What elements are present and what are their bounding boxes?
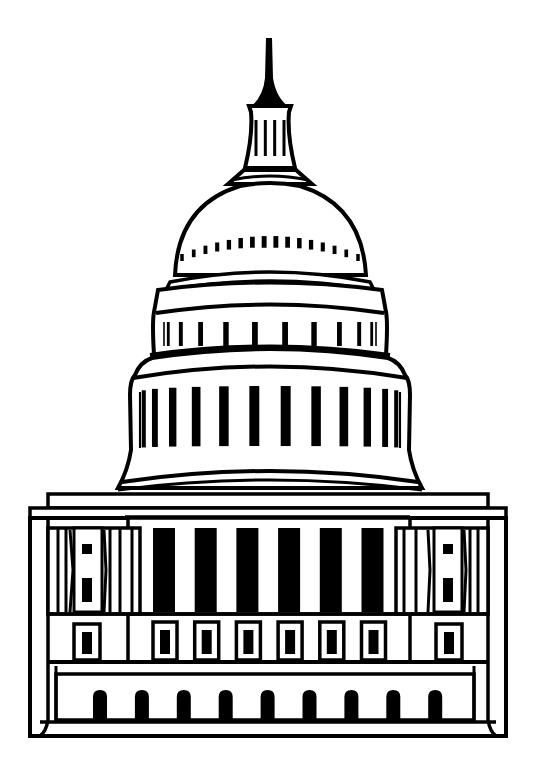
arch-doorway [344, 690, 358, 720]
dome-window [356, 254, 360, 261]
upper-drum-column [370, 322, 373, 346]
lower-drum-column [142, 390, 146, 447]
capitol-illustration: United States Capitol building line art [0, 0, 536, 775]
portico-column-gap [236, 528, 258, 612]
lower-drum-column [399, 392, 401, 448]
lower-drum [118, 349, 422, 490]
dome-window [321, 242, 325, 251]
arch-doorway [219, 690, 233, 720]
window-pane [160, 630, 170, 654]
arch-doorway [303, 690, 317, 720]
dome-window [273, 236, 278, 248]
upper-drum-column [357, 322, 361, 346]
lower-drum-column [394, 390, 398, 447]
dome-window [215, 242, 219, 251]
spire [249, 38, 290, 108]
upper-drum-column [163, 322, 165, 346]
arch-doorway [261, 690, 275, 720]
dome-window [204, 246, 208, 254]
dome-window [333, 246, 337, 254]
dome-window [192, 250, 196, 258]
lower-drum-column [382, 389, 388, 447]
portico-column-gap [320, 528, 342, 612]
window-pane [369, 630, 379, 654]
lower-drum-column [311, 386, 321, 446]
upper-drum-column [282, 322, 288, 346]
capitol-drawing [0, 0, 536, 775]
dome-window [262, 236, 267, 248]
lantern [228, 106, 312, 184]
dome-window [297, 238, 302, 248]
upper-drum [150, 283, 390, 356]
arch-doorway [177, 690, 191, 720]
window-pane [285, 630, 295, 654]
lower-drum-column [169, 388, 176, 447]
upper-drum-column [179, 322, 183, 346]
portico-column-gap [362, 528, 384, 612]
lower-drum-column [249, 386, 259, 446]
lower-drum-column [192, 387, 201, 446]
dome-window [180, 254, 184, 261]
upper-drum-column [311, 322, 316, 346]
arch-doorway [386, 690, 400, 720]
lower-drum-column [340, 387, 349, 446]
arch-doorway [93, 690, 107, 720]
portico-column-gap [278, 528, 300, 612]
dome-window [227, 240, 231, 250]
lower-drum-column [152, 389, 158, 447]
upper-drum-column [167, 322, 170, 346]
lantern-column [264, 120, 267, 156]
lower-drum-column [364, 388, 371, 447]
lower-drum-column [139, 392, 141, 448]
window-pane [202, 630, 212, 654]
lantern-column [273, 120, 276, 156]
right-wing [396, 528, 488, 614]
window-pane [327, 630, 337, 654]
dome-window [250, 237, 255, 248]
lower-drum-column [281, 386, 291, 446]
upper-drum-column [252, 322, 258, 346]
roofline [30, 494, 506, 518]
upper-drum-column [223, 322, 228, 346]
portico-column-gap [153, 528, 175, 612]
lantern-column [283, 120, 286, 156]
left-wing [48, 528, 140, 614]
lower-drum-column [219, 386, 229, 446]
dome-window [285, 237, 290, 248]
ground-arches [93, 690, 442, 720]
upper-drum-column [375, 322, 377, 346]
lantern-column [255, 120, 258, 156]
dome-window [344, 250, 348, 258]
window-pane [243, 630, 253, 654]
arch-doorway [428, 690, 442, 720]
dome-window [309, 240, 313, 250]
ground-floor [40, 666, 496, 722]
upper-drum-column [198, 322, 203, 346]
upper-drum-column [337, 322, 342, 346]
portico-column-gap [195, 528, 217, 612]
dome-window [238, 238, 243, 248]
arch-doorway [135, 690, 149, 720]
